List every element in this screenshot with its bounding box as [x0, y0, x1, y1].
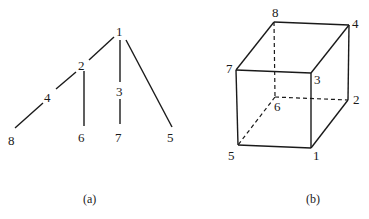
caption-a: (a)	[83, 192, 96, 206]
edge-1-5	[126, 40, 172, 127]
edge-4-2	[348, 25, 349, 100]
edge-1-5	[238, 145, 311, 148]
tree-diagram-a: 1 2 3 4 5 6 7 8 (a)	[8, 24, 174, 206]
cube-label-8: 8	[272, 5, 279, 20]
node-label-4: 4	[44, 90, 51, 105]
caption-b: (b)	[306, 192, 320, 206]
edge-2-1	[311, 100, 348, 148]
cube-label-1: 1	[313, 148, 320, 163]
cube-label-2: 2	[353, 92, 360, 107]
edge-7-8	[236, 22, 274, 70]
node-label-2: 2	[78, 58, 85, 73]
cube-label-4: 4	[352, 16, 359, 31]
node-label-3: 3	[116, 84, 123, 99]
node-label-7: 7	[115, 130, 122, 145]
cube-label-6: 6	[274, 99, 281, 114]
edge-5-7	[236, 70, 238, 145]
edge-2-4	[56, 72, 76, 89]
node-label-6: 6	[78, 130, 85, 145]
node-label-8: 8	[8, 133, 15, 148]
cube-label-7: 7	[226, 61, 233, 76]
edge-8-4	[274, 22, 349, 25]
hidden-edge-6-5	[238, 97, 275, 145]
edge-4-3	[311, 25, 349, 73]
cube-label-3: 3	[314, 72, 321, 87]
cube-label-5: 5	[228, 148, 235, 163]
edge-7-3	[236, 70, 311, 73]
figure: 1 2 3 4 5 6 7 8 (a) 1 2 3 4 5 6 7 8 (b)	[0, 0, 369, 219]
cube-diagram-b: 1 2 3 4 5 6 7 8 (b)	[226, 5, 360, 206]
hidden-edge-8-6	[274, 22, 275, 97]
edge-1-2	[89, 37, 114, 60]
node-label-5: 5	[167, 130, 174, 145]
node-label-1: 1	[116, 24, 123, 39]
edge-4-8	[15, 103, 43, 128]
